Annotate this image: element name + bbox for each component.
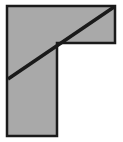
figure-svg [0,0,123,142]
figure-canvas [0,0,123,142]
